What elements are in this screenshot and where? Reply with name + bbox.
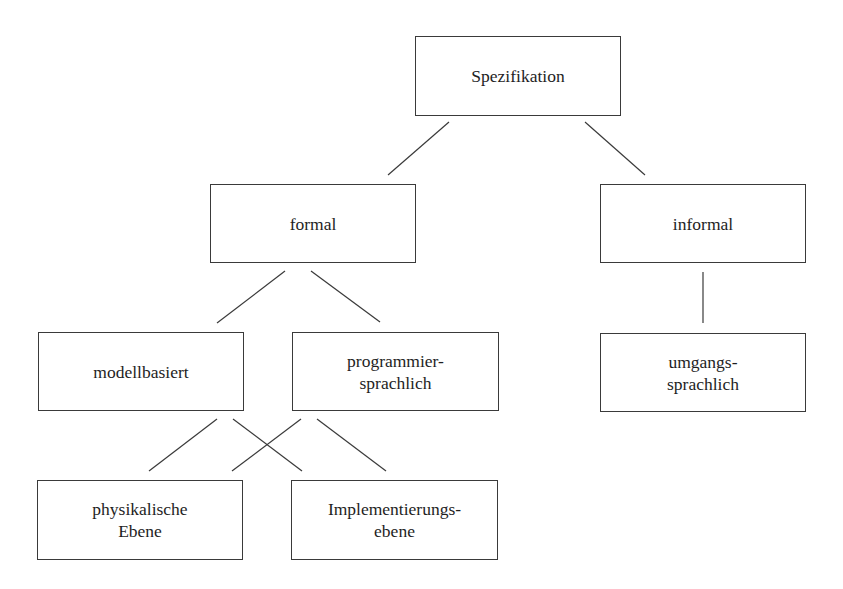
node-label: formal (290, 213, 337, 235)
node-label-line-1: programmier- (347, 350, 444, 372)
edge-modellbasiert-implementierung (233, 419, 302, 471)
node-modellbasiert: modellbasiert (38, 332, 244, 411)
edge-modellbasiert-physikalisch (149, 419, 217, 471)
edge-spezifikation-informal (585, 122, 645, 175)
edge-spezifikation-formal (388, 122, 449, 175)
node-programmiersprachlich: programmier- sprachlich (292, 332, 499, 411)
node-informal: informal (600, 184, 806, 263)
node-label-line-2: ebene (374, 520, 415, 542)
node-label: Spezifikation (471, 65, 564, 87)
specification-tree-diagram: Spezifikation formal informal modellbasi… (0, 0, 843, 589)
node-label-line-1: Implementierungs- (328, 498, 461, 520)
node-label-line-1: physikalische (92, 498, 187, 520)
edge-formal-programmiersprachlich (311, 271, 380, 322)
node-umgangssprachlich: umgangs- sprachlich (600, 333, 806, 412)
node-implementierungsebene: Implementierungs- ebene (291, 480, 498, 560)
node-label: informal (673, 213, 733, 235)
node-label-line-2: sprachlich (667, 373, 739, 395)
node-formal: formal (210, 184, 416, 263)
node-spezifikation: Spezifikation (415, 36, 621, 116)
node-label-line-1: umgangs- (668, 351, 737, 373)
edge-programmiersprachlich-implementierung (317, 419, 386, 471)
node-label-line-2: Ebene (118, 520, 162, 542)
edge-programmiersprachlich-physikalisch (232, 419, 301, 471)
edge-formal-modellbasiert (217, 271, 285, 323)
node-label-line-2: sprachlich (360, 372, 432, 394)
node-physikalische-ebene: physikalische Ebene (37, 480, 243, 560)
node-label: modellbasiert (93, 361, 188, 383)
